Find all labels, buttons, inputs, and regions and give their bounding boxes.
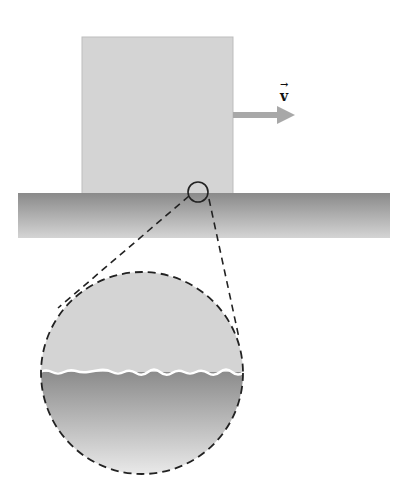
- velocity-symbol: v: [280, 88, 288, 104]
- vector-arrow-glyph: →: [280, 79, 288, 90]
- velocity-arrow-icon: [233, 106, 295, 124]
- block: [82, 37, 233, 194]
- velocity-label: → v: [280, 88, 288, 104]
- friction-diagram: [0, 0, 409, 499]
